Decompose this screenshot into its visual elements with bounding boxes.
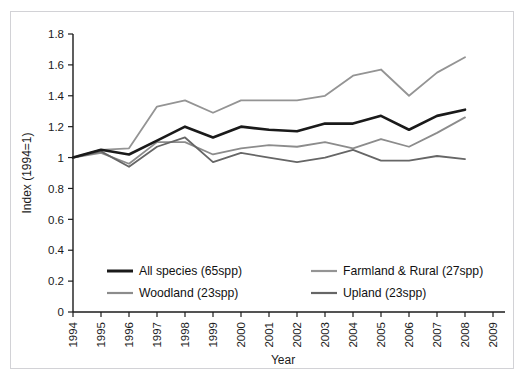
bottom-cropped-text [4, 371, 525, 380]
series-line [73, 110, 465, 158]
x-axis-tick-label: 2007 [431, 322, 443, 348]
y-axis-tick-label: 0 [58, 306, 64, 318]
y-axis-tick-label: 0.6 [48, 214, 64, 226]
x-axis-tick-label: 2006 [403, 322, 415, 348]
x-axis-tick-label: 1998 [179, 322, 191, 348]
legend-item: Upland (23spp) [311, 286, 426, 300]
x-axis-tick-label: 1997 [151, 322, 163, 348]
x-axis-tick-label: 1996 [123, 322, 135, 348]
x-axis-tick-label: 2008 [459, 322, 471, 348]
y-axis-tick-label: 1.2 [48, 121, 64, 133]
x-axis-tick-label: 2004 [347, 321, 359, 347]
legend-label: All species (65spp) [139, 264, 242, 278]
legend-item: Farmland & Rural (27spp) [311, 264, 483, 278]
legend-label: Upland (23spp) [343, 286, 426, 300]
y-axis-tick-label: 1 [58, 152, 64, 164]
x-axis-tick-label: 1995 [95, 322, 107, 348]
y-axis-tick-label: 0.8 [48, 183, 64, 195]
x-axis-title: Year [271, 353, 295, 367]
y-axis-tick-label: 1.4 [48, 90, 65, 102]
x-axis-tick-label: 2001 [263, 322, 275, 348]
top-cropped-text [0, 0, 525, 9]
series-line [73, 57, 465, 157]
x-axis-tick-label: 1994 [67, 321, 79, 347]
x-axis-tick-label: 2000 [235, 322, 247, 348]
legend-item: Woodland (23spp) [107, 286, 238, 300]
y-axis-title: Index (1994=1) [20, 132, 34, 213]
y-axis-tick-label: 0.2 [48, 275, 64, 287]
x-axis-tick-label: 2003 [319, 322, 331, 348]
x-axis-tick-label: 1999 [207, 322, 219, 348]
legend-item: All species (65spp) [107, 264, 242, 278]
figure-frame: 00.20.40.60.811.21.41.61.819941995199619… [10, 11, 514, 369]
legend-label: Woodland (23spp) [139, 286, 238, 300]
x-axis-tick-label: 2009 [487, 322, 499, 348]
chart-canvas: 00.20.40.60.811.21.41.61.819941995199619… [11, 12, 515, 370]
y-axis-tick-label: 0.4 [48, 244, 65, 256]
y-axis-tick-label: 1.6 [48, 59, 64, 71]
line-chart: 00.20.40.60.811.21.41.61.819941995199619… [11, 12, 515, 370]
x-axis-tick-label: 2002 [291, 322, 303, 348]
x-axis-tick-label: 2005 [375, 322, 387, 348]
y-axis-tick-label: 1.8 [48, 28, 64, 40]
legend-label: Farmland & Rural (27spp) [343, 264, 483, 278]
